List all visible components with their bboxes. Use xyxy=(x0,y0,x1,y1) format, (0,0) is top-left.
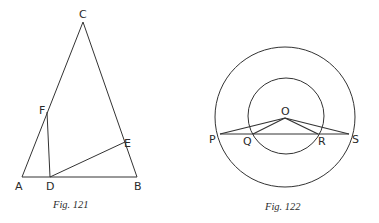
figure-121: A D B C F E Fig. 121 xyxy=(15,8,142,210)
segment-os xyxy=(285,118,349,134)
label-b: B xyxy=(134,180,142,193)
segment-df xyxy=(47,112,50,177)
segment-de xyxy=(50,142,125,177)
label-a: A xyxy=(15,180,23,193)
segment-oq xyxy=(253,118,285,134)
label-r: R xyxy=(318,135,326,148)
label-f: F xyxy=(39,104,45,117)
label-q: Q xyxy=(243,135,252,148)
label-p: P xyxy=(209,133,216,146)
caption-fig-122: Fig. 122 xyxy=(264,201,301,212)
label-c: C xyxy=(79,8,87,21)
segment-or xyxy=(285,118,318,134)
diagram-canvas: A D B C F E Fig. 121 O P Q R S Fig. 122 xyxy=(0,0,379,223)
label-o: O xyxy=(281,105,290,118)
segment-ac xyxy=(22,22,83,177)
label-e: E xyxy=(124,137,131,150)
segment-op xyxy=(220,118,285,134)
figure-122: O P Q R S Fig. 122 xyxy=(209,47,359,212)
caption-fig-121: Fig. 121 xyxy=(52,199,89,210)
segment-bc xyxy=(83,22,137,177)
label-d: D xyxy=(46,180,54,193)
label-s: S xyxy=(352,133,359,146)
